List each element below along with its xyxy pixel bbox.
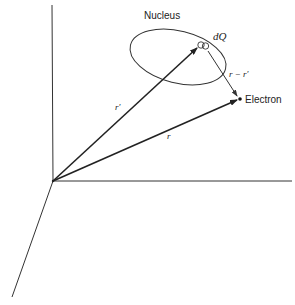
nucleus-label: Nucleus [144,11,180,21]
diagonal-axis [12,181,53,297]
r-prime-label: r′ [115,103,120,112]
charge-element-icon [198,42,204,48]
electron-dot [238,97,242,101]
r-vector [53,100,237,181]
dq-label: dQ [213,31,226,42]
electron-label: Electron [245,95,282,105]
diagram-canvas [0,0,295,305]
vertical-axis [52,5,53,181]
origin-dot [52,180,54,182]
r-label: r [167,132,171,141]
r-minus-r-prime-label: r − r′ [229,70,249,79]
r-prime-vector [53,48,197,181]
